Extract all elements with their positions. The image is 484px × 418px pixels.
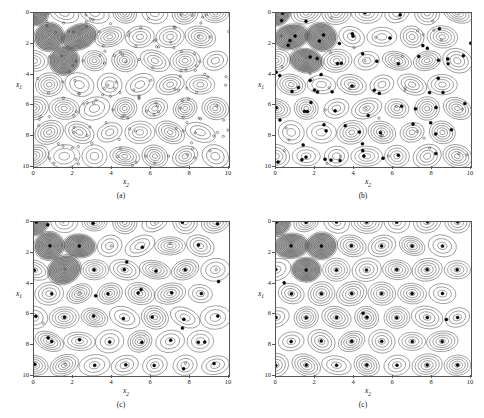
data-point-filled: [322, 33, 325, 36]
data-point-open: [184, 362, 186, 364]
y-tick-label: 6: [259, 101, 271, 108]
x-axis-label-c: x2: [123, 386, 129, 397]
data-point-filled: [434, 133, 437, 136]
contour-ring: [163, 288, 177, 299]
y-tick-mark: [30, 104, 33, 105]
contour-ring: [200, 95, 229, 123]
contour-ring: [116, 53, 134, 69]
data-point-open: [398, 17, 400, 19]
contour-ring: [431, 76, 454, 92]
contour-ring: [170, 222, 199, 236]
contour-ring: [349, 94, 385, 122]
contour-ring: [178, 222, 193, 229]
contour-ring: [384, 97, 411, 120]
x-tick-label: 6: [148, 170, 151, 177]
contour-ring: [303, 13, 310, 16]
data-point-open: [395, 105, 397, 107]
data-point-filled: [181, 222, 184, 224]
contour-ring: [276, 96, 292, 121]
contour-ring: [439, 129, 445, 135]
data-point-open: [131, 164, 133, 166]
x-tick-label: 10: [467, 170, 474, 177]
contour-ring: [419, 100, 436, 116]
contour-ring: [417, 13, 438, 23]
data-point-open: [224, 84, 226, 86]
data-point-filled: [400, 105, 403, 108]
data-point-filled: [305, 364, 308, 367]
contour-ring: [201, 48, 229, 73]
data-point-open: [222, 119, 224, 121]
contour-ring: [148, 311, 161, 323]
data-point-open: [205, 14, 207, 16]
data-point-filled: [216, 222, 219, 225]
contour-ring: [42, 126, 57, 139]
x-tick-label: 2: [312, 379, 315, 386]
contour-ring: [160, 286, 181, 302]
contour-ring: [82, 98, 106, 119]
y-axis-label-d: x1: [258, 289, 264, 300]
data-point-open: [195, 65, 197, 67]
contour-ring: [413, 13, 441, 26]
data-point-open: [199, 60, 201, 62]
data-point-open: [92, 19, 94, 21]
data-point-filled: [367, 114, 370, 117]
y-tick-mark: [272, 252, 275, 253]
contour-ring: [88, 103, 100, 113]
contour-ring: [408, 81, 417, 88]
contour-ring: [94, 119, 125, 146]
contour-ring: [206, 52, 225, 69]
y-tick-mark: [272, 283, 275, 284]
contour-ring: [59, 152, 70, 160]
x-tick-label: 8: [187, 170, 190, 177]
contour-ring: [70, 285, 89, 301]
data-point-open: [378, 117, 380, 119]
y-tick-mark: [272, 135, 275, 136]
contour-ring: [188, 235, 214, 257]
contour-ring: [105, 241, 115, 250]
contour-ring: [177, 149, 193, 163]
plot-area-d: [275, 221, 472, 377]
x-tick-label: 4: [351, 379, 354, 386]
contour-ring: [327, 13, 346, 21]
y-tick-label: 6: [17, 310, 29, 317]
contour-ring: [122, 231, 159, 261]
data-point-filled: [203, 341, 206, 344]
y-tick-label: 0: [259, 218, 271, 225]
x-axis-label-b: x2: [365, 177, 371, 188]
y-tick-mark: [272, 344, 275, 345]
y-tick-mark: [30, 313, 33, 314]
data-point-filled: [442, 91, 445, 94]
data-point-filled: [47, 336, 50, 339]
data-point-open: [150, 79, 152, 81]
data-point-open: [48, 115, 50, 117]
contour-ring: [399, 74, 426, 96]
y-tick-label: 0: [17, 218, 29, 225]
contour-ring: [197, 82, 204, 87]
contour-ring: [421, 103, 432, 114]
contour-ring: [359, 151, 375, 161]
contour-ring: [152, 153, 158, 159]
contour-ring: [87, 54, 103, 67]
contour-ring: [276, 304, 292, 330]
contour-ring: [173, 308, 197, 328]
data-point-filled: [182, 367, 185, 370]
data-point-open: [62, 222, 64, 223]
contour-ring: [207, 13, 224, 19]
y-tick-mark: [272, 74, 275, 75]
data-point-filled: [324, 158, 327, 161]
data-point-open: [154, 222, 156, 223]
data-point-filled: [305, 156, 308, 159]
contour-ring: [323, 145, 349, 167]
contour-ring: [136, 34, 144, 40]
y-tick-label: 2: [259, 249, 271, 256]
contour-ring: [164, 242, 177, 250]
data-point-filled: [417, 55, 420, 58]
contour-ring: [166, 81, 174, 88]
contour-ring: [387, 53, 407, 68]
data-point-filled: [303, 110, 306, 113]
x-tick-label: 0: [31, 379, 34, 386]
y-tick-mark: [30, 12, 33, 13]
data-point-filled: [170, 291, 173, 294]
contour-ring: [362, 105, 371, 112]
contour-ring: [93, 24, 127, 50]
